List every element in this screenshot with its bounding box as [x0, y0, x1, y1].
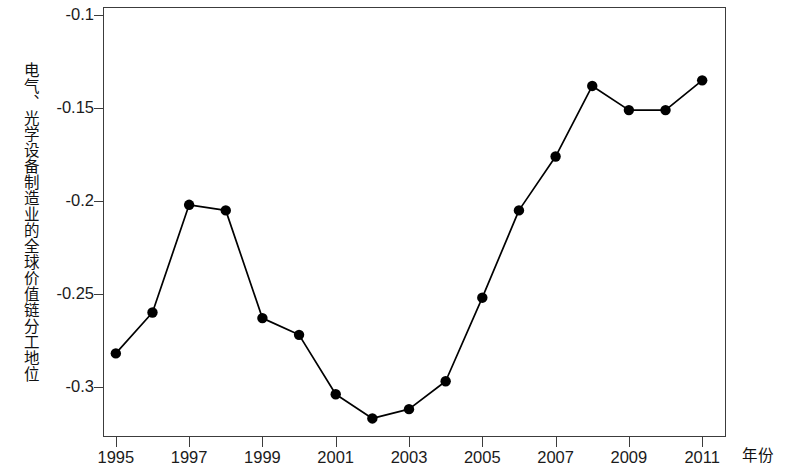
data-point: [257, 313, 267, 323]
chart-figure: 电气、光学设备制造业的全球价值链分工地位 -0.1-0.15-0.2-0.25-…: [0, 0, 788, 476]
y-axis-tick-label: -0.3: [42, 378, 94, 395]
data-point: [697, 75, 707, 85]
y-axis-tick-label: -0.1: [42, 6, 94, 23]
x-axis-tick-label: 2001: [301, 449, 371, 466]
y-axis-tick-mark: [94, 294, 103, 295]
y-axis-tick-mark: [94, 108, 103, 109]
x-axis-title: 年份: [742, 448, 774, 465]
data-point: [404, 404, 414, 414]
y-axis-tick-label: -0.25: [42, 285, 94, 302]
x-axis-tick-label: 1997: [154, 449, 224, 466]
x-axis-tick-label: 1999: [227, 449, 297, 466]
data-point: [294, 330, 304, 340]
data-point: [367, 413, 377, 423]
data-point: [477, 292, 487, 302]
data-point: [147, 307, 157, 317]
data-point: [111, 348, 121, 358]
data-point: [184, 200, 194, 210]
y-axis-tick-label: -0.2: [42, 192, 94, 209]
data-point: [660, 105, 670, 115]
x-axis-tick-mark: [556, 437, 557, 447]
y-axis-tick-label: -0.15: [42, 99, 94, 116]
x-axis-tick-label: 1995: [81, 449, 151, 466]
series-line: [116, 80, 702, 418]
x-axis-tick-mark: [702, 437, 703, 447]
x-axis-tick-mark: [409, 437, 410, 447]
data-point: [221, 205, 231, 215]
x-axis-tick-mark: [336, 437, 337, 447]
x-axis-tick-mark: [262, 437, 263, 447]
x-axis-tick-mark: [116, 437, 117, 447]
x-axis-tick-mark: [189, 437, 190, 447]
y-axis-tick-mark: [94, 387, 103, 388]
x-axis-tick-label: 2009: [594, 449, 664, 466]
x-axis-tick-label: 2005: [447, 449, 517, 466]
y-axis-tick-mark: [94, 15, 103, 16]
x-axis-tick-mark: [629, 437, 630, 447]
data-point: [550, 151, 560, 161]
data-point: [624, 105, 634, 115]
x-axis-tick-label: 2003: [374, 449, 444, 466]
series-marker-group: [111, 75, 708, 423]
x-axis-tick-label: 2011: [667, 449, 737, 466]
data-point: [514, 205, 524, 215]
data-point: [440, 376, 450, 386]
x-axis-tick-label: 2007: [521, 449, 591, 466]
data-point: [587, 81, 597, 91]
y-axis-title: 电气、光学设备制造业的全球价值链分工地位: [4, 6, 38, 438]
x-axis-tick-mark: [482, 437, 483, 447]
line-series-plot: [103, 7, 726, 437]
y-axis-tick-mark: [94, 201, 103, 202]
data-point: [331, 389, 341, 399]
